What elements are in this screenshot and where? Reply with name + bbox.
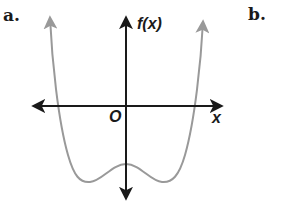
function-graph: f(x) x O: [0, 0, 281, 208]
y-axis-label: f(x): [137, 15, 162, 32]
x-axis-label: x: [211, 109, 222, 126]
origin-label: O: [109, 108, 122, 125]
